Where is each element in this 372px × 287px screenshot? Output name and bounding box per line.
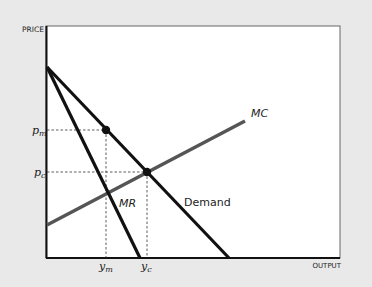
pc-tick-label: pc — [34, 166, 46, 180]
monopoly-diagram: PRICE OUTPUT MC MR Demand pm pc ym yc — [0, 0, 372, 287]
mc-label: MC — [251, 107, 268, 120]
pm-tick-label: pm — [32, 124, 47, 138]
competitive-point — [143, 168, 151, 176]
plot-area — [46, 26, 340, 258]
y-axis-label: PRICE — [22, 25, 44, 34]
mr-label: MR — [119, 197, 136, 210]
x-axis-label: OUTPUT — [312, 262, 341, 270]
ym-tick-label: ym — [98, 260, 113, 274]
yc-tick-label: yc — [140, 260, 152, 274]
demand-label: Demand — [184, 196, 231, 209]
monopoly-point — [102, 126, 110, 134]
